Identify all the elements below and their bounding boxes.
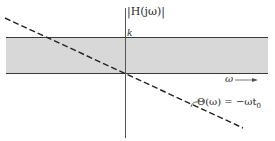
diagram-canvas <box>0 0 275 141</box>
phase-label-subscript: 0 <box>256 102 260 110</box>
magnitude-label: |H(jω)| <box>127 5 165 18</box>
phase-label: Θ(ω) = −ωt0 <box>197 96 261 110</box>
frequency-axis-label: ω <box>225 73 233 84</box>
magnitude-level-label: k <box>127 28 132 38</box>
arrow-right-icon <box>252 78 258 82</box>
magnitude-band <box>6 37 268 73</box>
